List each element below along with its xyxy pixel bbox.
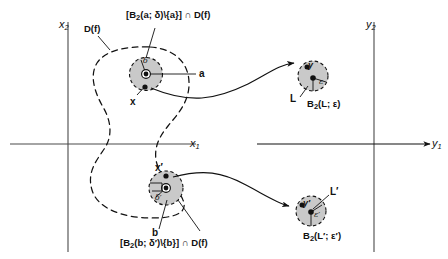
point-y-prime-label: y′ (303, 199, 310, 208)
top-set-leader (146, 28, 155, 58)
right-horizontal-axis-label: y1 (432, 138, 442, 151)
point-b-label: b (152, 228, 158, 238)
top-set-annotation: [B2(a; δ)\{a}] ∩ D(f) (126, 10, 210, 22)
point-a-dot (144, 72, 149, 77)
epsilon-label: ε (319, 78, 323, 86)
mapping-arrow-upper (151, 63, 294, 98)
point-L-prime-dot (308, 209, 314, 215)
mapping-arrow-lower (173, 173, 289, 206)
point-b-dot (164, 186, 169, 191)
delta-label: δ (143, 57, 148, 65)
delta-prime-label: δ′ (155, 194, 162, 202)
point-x-prime-label: x′ (155, 163, 163, 173)
right-vertical-axis-label: y2 (366, 19, 376, 32)
point-L-dot (310, 75, 316, 81)
epsilon-prime-label: ε′ (314, 211, 320, 219)
lower-right-ball-label: B2(L′; ε′) (303, 231, 341, 243)
bottom-set-leader (178, 200, 200, 231)
domain-label-leader (98, 36, 110, 50)
point-L-prime-label: L′ (330, 187, 339, 197)
point-y-label: y (308, 61, 313, 70)
domain-region-label: D(f) (84, 24, 100, 34)
upper-right-ball-label: B2(L; ε) (307, 99, 341, 111)
point-a-label: a (199, 69, 205, 79)
point-x-label: x (130, 97, 136, 107)
bottom-set-annotation: [B2(b; δ′)\{b}] ∩ D(f) (120, 238, 208, 250)
diagram-canvas (0, 0, 448, 259)
left-vertical-axis-label: x2 (59, 19, 69, 32)
left-horizontal-axis-label: x1 (190, 138, 200, 151)
point-x-prime-dot (163, 173, 168, 178)
limit-diagram-figure: x2 x1 y2 y1 D(f) [B2(a; δ)\{a}] ∩ D(f) [… (0, 0, 448, 259)
point-L-label: L (290, 94, 296, 104)
